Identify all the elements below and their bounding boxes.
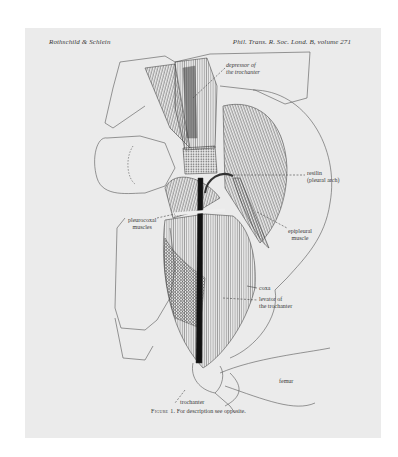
label-line: trochanter [180, 399, 204, 406]
label-epipleural: epipleural muscle [288, 228, 312, 242]
label-line: resilin [307, 170, 339, 177]
label-resilin: resilin (pleural arch) [307, 170, 339, 184]
label-levator: levator of the trochanter [259, 296, 292, 310]
label-trochanter: trochanter [180, 399, 204, 406]
label-line: muscles [128, 224, 156, 231]
label-line: depressor of [226, 62, 260, 69]
label-line: the trochanter [226, 69, 260, 76]
label-pleurocoxal: pleurocoxal muscles [128, 217, 156, 231]
figure-number: Figure 1. [151, 408, 175, 414]
caption-text: For description see opposite. [177, 408, 246, 414]
label-line: (pleural arch) [307, 177, 339, 184]
label-line: the trochanter [259, 303, 292, 310]
label-line: pleurocoxal [128, 217, 156, 224]
label-coxa: coxa [259, 285, 270, 292]
label-femur: femur [279, 378, 293, 385]
label-line: coxa [259, 285, 270, 292]
journal-page: Rothschild & Schlein Phil. Trans. R. Soc… [25, 28, 381, 438]
label-line: levator of [259, 296, 292, 303]
label-depressor: depressor of the trochanter [226, 62, 260, 76]
muscle-hatching [145, 58, 287, 368]
label-line: femur [279, 378, 293, 385]
figure-caption: Figure 1. For description see opposite. [151, 408, 246, 414]
anatomical-illustration [25, 28, 381, 438]
label-line: muscle [288, 235, 312, 242]
label-line: epipleural [288, 228, 312, 235]
